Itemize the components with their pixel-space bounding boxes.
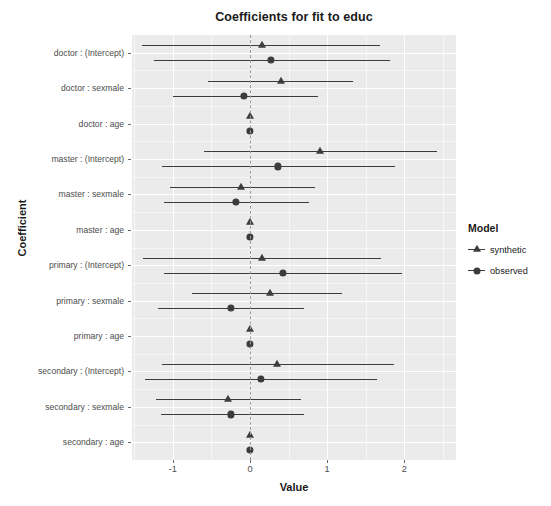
grid-line-horizontal-minor (132, 177, 456, 178)
grid-line-horizontal (132, 407, 456, 408)
legend-key-triangle-icon (468, 241, 485, 258)
grid-line-horizontal (132, 159, 456, 160)
grid-line-horizontal-minor (132, 318, 456, 319)
y-axis-tick-label: secondary : (Intercept) (38, 366, 124, 376)
x-axis-tick-label: 0 (247, 464, 252, 474)
y-axis-tick-label: doctor : age (79, 119, 124, 129)
x-axis-tick-label: -1 (169, 464, 177, 474)
y-axis-title: Coefficient (16, 168, 28, 288)
y-axis-tick-label: secondary : age (63, 437, 124, 447)
data-point-triangle (224, 395, 232, 402)
grid-line-horizontal-minor (132, 70, 456, 71)
y-axis-tick-mark (128, 371, 131, 372)
data-point-circle (280, 269, 287, 276)
plot-panel (132, 35, 456, 460)
legend-item-label: synthetic (490, 245, 526, 255)
x-axis-ticks: -1012 (132, 460, 456, 480)
grid-line-horizontal (132, 371, 456, 372)
x-axis-tick-label: 2 (402, 464, 407, 474)
legend: Model syntheticobserved (468, 222, 548, 283)
data-point-circle (240, 92, 247, 99)
x-axis-tick-mark (404, 460, 405, 463)
data-point-circle (233, 198, 240, 205)
y-axis-tick-label: primary : (Intercept) (49, 260, 124, 270)
y-axis-tick-mark (128, 124, 131, 125)
y-axis-tick-label: master : (Intercept) (51, 154, 124, 164)
y-axis-tick-mark (128, 230, 131, 231)
data-point-circle (227, 411, 234, 418)
y-axis-tick-mark (128, 159, 131, 160)
grid-line-horizontal-minor (132, 354, 456, 355)
x-axis-tick-mark (173, 460, 174, 463)
y-axis-tick-mark (128, 265, 131, 266)
legend-item[interactable]: synthetic (468, 241, 548, 258)
data-point-triangle (258, 254, 266, 261)
data-point-circle (257, 375, 264, 382)
legend-item-label: observed (490, 266, 528, 276)
grid-line-horizontal-minor (132, 389, 456, 390)
data-point-triangle (316, 147, 324, 154)
y-axis-tick-mark (128, 53, 131, 54)
y-axis-tick-label: master : sexmale (59, 189, 124, 199)
data-point-circle (227, 305, 234, 312)
data-point-triangle (266, 289, 274, 296)
y-axis-tick-label: primary : age (74, 331, 124, 341)
grid-line-horizontal-minor (132, 141, 456, 142)
data-point-triangle (237, 183, 245, 190)
y-axis-tick-label: primary : sexmale (56, 296, 124, 306)
y-axis-tick-mark (128, 407, 131, 408)
grid-line-horizontal-minor (132, 248, 456, 249)
y-axis-tick-mark (128, 442, 131, 443)
grid-line-horizontal (132, 265, 456, 266)
data-point-circle (274, 163, 281, 170)
data-point-triangle (277, 76, 285, 83)
grid-line-horizontal (132, 230, 456, 231)
legend-items: syntheticobserved (468, 241, 548, 279)
y-axis-tick-mark (128, 88, 131, 89)
x-axis-tick-mark (327, 460, 328, 463)
grid-line-horizontal (132, 88, 456, 89)
grid-line-horizontal-minor (132, 212, 456, 213)
y-axis-tick-mark (128, 194, 131, 195)
y-axis-tick-mark (128, 336, 131, 337)
grid-line-horizontal (132, 53, 456, 54)
grid-line-horizontal (132, 442, 456, 443)
legend-title: Model (468, 222, 548, 234)
legend-item[interactable]: observed (468, 262, 548, 279)
data-point-circle (267, 57, 274, 64)
grid-line-horizontal (132, 301, 456, 302)
x-axis-title: Value (132, 481, 456, 493)
legend-key-circle-icon (468, 262, 485, 279)
data-point-triangle (273, 360, 281, 367)
grid-line-horizontal (132, 194, 456, 195)
y-axis-tick-label: doctor : sexmale (61, 83, 124, 93)
y-axis-tick-mark (128, 301, 131, 302)
grid-line-horizontal (132, 124, 456, 125)
x-axis-tick-label: 1 (325, 464, 330, 474)
page-title: Coefficients for fit to educ (132, 10, 456, 24)
grid-line-horizontal (132, 336, 456, 337)
data-point-triangle (258, 41, 266, 48)
y-axis-tick-label: master : age (76, 225, 124, 235)
x-axis-tick-mark (250, 460, 251, 463)
y-axis-tick-label: doctor : (Intercept) (54, 48, 124, 58)
grid-line-horizontal-minor (132, 425, 456, 426)
grid-line-horizontal-minor (132, 283, 456, 284)
y-axis-tick-label: secondary : sexmale (45, 402, 124, 412)
chart-root: Coefficients for fit to educ doctor : (I… (0, 0, 551, 506)
grid-line-horizontal-minor (132, 106, 456, 107)
zero-reference-line (250, 35, 251, 460)
